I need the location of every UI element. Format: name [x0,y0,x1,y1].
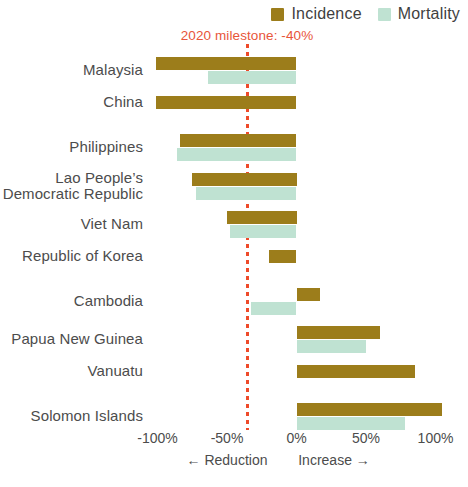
category-label-malaysia: Malaysia [83,62,143,79]
category-label-solomon-islands: Solomon Islands [31,408,143,425]
chart-row: Solomon Islands [0,403,468,430]
axis-caption-increase: Increase → [298,452,370,468]
bar-incidence[interactable] [269,250,297,263]
axis-tick-3: 50% [352,430,380,446]
bar-incidence[interactable] [297,288,321,301]
chart-row: China [0,96,468,123]
category-label-lao-people-s-democratic-republic: Lao People’s Democratic Republic [3,170,143,204]
bar-incidence[interactable] [156,57,296,70]
bar-mortality[interactable] [177,148,297,161]
bar-mortality[interactable] [208,71,297,84]
category-label-cambodia: Cambodia [74,293,143,310]
x-axis: -100%-50%0%50%100% [0,430,468,450]
bar-incidence[interactable] [192,173,296,186]
axis-tick-2: 0% [286,430,306,446]
chart-row: Papua New Guinea [0,326,468,353]
chart-row: Republic of Korea [0,250,468,277]
category-label-papua-new-guinea: Papua New Guinea [11,331,143,348]
category-label-viet-nam: Viet Nam [81,216,143,233]
axis-tick-1: -50% [211,430,244,446]
bar-incidence[interactable] [297,365,415,378]
bar-mortality[interactable] [297,340,367,353]
chart-row: Malaysia [0,57,468,84]
axis-tick-4: 100% [418,430,454,446]
category-label-china: China [103,94,143,111]
chart-container: Incidence Mortality 2020 milestone: -40%… [0,0,468,487]
bar-mortality[interactable] [297,417,405,430]
x-axis-captions: ← ReductionIncrease → [0,452,468,472]
bar-mortality[interactable] [196,187,296,200]
chart-row: Cambodia [0,288,468,315]
bar-incidence[interactable] [227,211,297,224]
axis-caption-reduction: ← Reduction [187,452,268,468]
bar-incidence[interactable] [156,96,296,109]
chart-row: Philippines [0,134,468,161]
bar-mortality[interactable] [251,302,297,315]
axis-tick-0: -100% [137,430,177,446]
category-label-republic-of-korea: Republic of Korea [22,248,143,265]
category-label-philippines: Philippines [69,139,143,156]
chart-row: Viet Nam [0,211,468,238]
chart-row: Vanuatu [0,365,468,392]
category-label-vanuatu: Vanuatu [88,363,143,380]
bar-mortality[interactable] [230,225,297,238]
chart-row: Lao People’s Democratic Republic [0,173,468,200]
plot-area: MalaysiaChinaPhilippinesLao People’s Dem… [0,0,468,487]
bar-incidence[interactable] [297,403,443,416]
bar-incidence[interactable] [297,326,380,339]
bar-incidence[interactable] [180,134,297,147]
